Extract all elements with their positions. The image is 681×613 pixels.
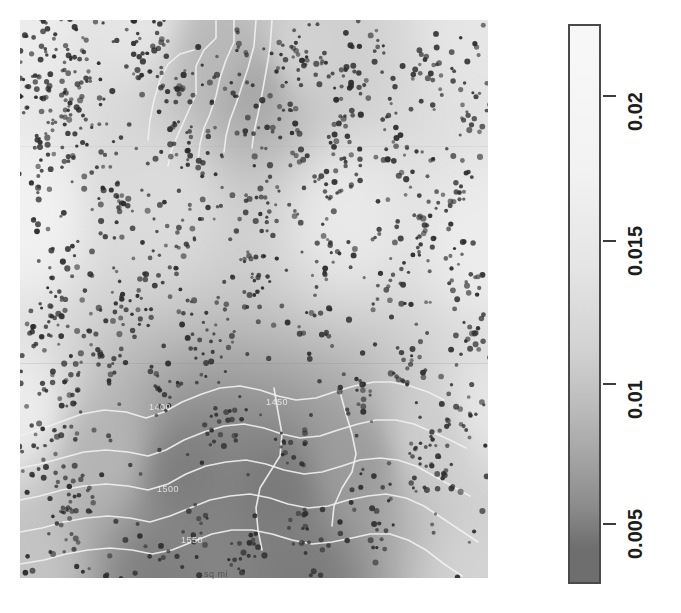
scatter-point: [34, 433, 38, 437]
scatter-point: [149, 307, 153, 311]
scatter-point: [157, 109, 162, 114]
scatter-point: [364, 78, 369, 83]
scatter-point: [175, 266, 179, 270]
scatter-point: [285, 81, 288, 84]
scatter-point: [66, 117, 72, 123]
scatter-point: [270, 51, 274, 55]
scatter-point: [40, 306, 43, 309]
scatter-point: [418, 63, 421, 66]
raster-map-panel[interactable]: 1450150015501400: [20, 20, 488, 578]
scatter-point: [46, 286, 49, 289]
scatter-point: [132, 334, 137, 339]
scatter-point: [296, 68, 300, 72]
scatter-point: [20, 380, 24, 386]
scatter-point: [214, 172, 218, 176]
scatter-point: [176, 383, 181, 388]
scatter-point: [59, 523, 64, 528]
scatter-point: [161, 281, 165, 285]
scatter-point: [119, 304, 123, 308]
scatter-point: [274, 69, 278, 73]
scatter-point: [248, 533, 253, 538]
scatter-point: [200, 196, 206, 202]
scatter-point: [164, 243, 168, 247]
scatter-point: [40, 426, 45, 431]
scatter-point: [234, 438, 238, 442]
scatter-point: [152, 217, 155, 220]
scatter-point: [357, 178, 362, 183]
scatter-point: [224, 370, 227, 373]
scatter-point: [340, 84, 344, 88]
scatter-point: [37, 75, 40, 78]
scatter-point: [57, 396, 62, 401]
scatter-point: [132, 257, 136, 261]
scatter-point: [209, 427, 214, 432]
scatter-point: [130, 225, 136, 231]
scatter-point: [459, 36, 463, 40]
scatter-point: [60, 166, 64, 170]
scatter-point: [193, 347, 197, 351]
scatter-point: [299, 461, 304, 466]
scatter-point: [79, 361, 82, 364]
scatter-point: [135, 147, 139, 151]
scatter-point: [113, 236, 117, 240]
scatter-point: [360, 350, 365, 355]
scatter-point: [398, 235, 404, 241]
scatter-point: [136, 32, 140, 36]
scatter-point: [478, 92, 481, 95]
scatter-point: [404, 193, 408, 197]
scatter-point: [68, 500, 72, 504]
scatter-point: [140, 189, 143, 192]
scatter-point: [371, 302, 374, 305]
scatter-point: [291, 55, 295, 59]
scatter-point: [265, 216, 268, 219]
scatter-point: [214, 72, 220, 78]
scatter-point: [360, 409, 366, 415]
scatter-point: [190, 313, 193, 316]
scatter-point: [90, 123, 93, 126]
scatter-point: [457, 263, 460, 266]
scatter-point: [439, 401, 445, 407]
scatter-point: [318, 573, 323, 578]
scatter-point: [20, 370, 23, 374]
scatter-point: [218, 432, 223, 437]
scatter-point: [20, 450, 24, 454]
scatter-point: [292, 121, 298, 127]
scatter-point: [53, 452, 57, 456]
scatter-point: [401, 357, 406, 362]
scatter-point: [97, 122, 101, 126]
colorbar[interactable]: 0.020.0150.010.005: [568, 24, 601, 584]
scatter-point: [361, 468, 364, 471]
scatter-point: [117, 209, 122, 214]
scatter-point: [62, 550, 66, 554]
scatter-point: [454, 189, 459, 194]
scatter-point: [74, 27, 78, 31]
scatter-point: [261, 286, 265, 290]
scatter-point: [313, 61, 319, 67]
scatter-point: [36, 191, 39, 194]
scatter-point: [44, 324, 48, 328]
scatter-point: [71, 180, 74, 183]
scatter-point: [358, 164, 362, 168]
scatter-point: [204, 375, 207, 378]
scatter-point: [410, 454, 415, 459]
scatter-point: [417, 250, 421, 254]
colorbar-tick-label-0: 0.02: [624, 92, 647, 131]
scatter-point: [471, 91, 474, 94]
scatter-point: [50, 380, 55, 385]
scatter-point: [421, 231, 426, 236]
scatter-point: [352, 246, 358, 252]
scatter-point: [246, 473, 250, 477]
scatter-point: [25, 322, 30, 327]
scatter-point: [371, 521, 377, 527]
scatter-point: [410, 354, 413, 357]
scatter-point: [331, 179, 337, 185]
scatter-point: [473, 330, 478, 335]
scatter-point: [119, 135, 124, 140]
scatter-point: [234, 228, 239, 233]
scatter-point: [259, 97, 265, 103]
scatter-point: [434, 45, 440, 51]
scatter-point: [322, 51, 327, 56]
scatter-point: [429, 435, 433, 439]
scatter-point: [89, 343, 93, 347]
scatter-point: [252, 542, 256, 546]
